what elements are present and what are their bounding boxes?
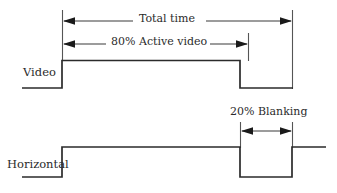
video-waveform bbox=[22, 61, 293, 89]
arrow-right-icon bbox=[280, 127, 292, 135]
arrow-right-icon bbox=[236, 40, 248, 48]
dimension-blanking bbox=[241, 127, 292, 135]
signal-label-horizontal: Horizontal bbox=[7, 159, 69, 171]
timing-diagram: Video Horizontal Total time 80% Active v… bbox=[0, 0, 337, 193]
arrow-right-icon bbox=[280, 17, 292, 25]
dimension-label-blanking: 20% Blanking bbox=[227, 106, 311, 117]
arrow-left-icon bbox=[63, 40, 75, 48]
dimension-label-total-time: Total time bbox=[136, 13, 198, 24]
signal-label-video: Video bbox=[23, 67, 56, 79]
arrow-left-icon bbox=[241, 127, 253, 135]
dimension-label-active-video: 80% Active video bbox=[108, 36, 210, 47]
arrow-left-icon bbox=[63, 17, 75, 25]
